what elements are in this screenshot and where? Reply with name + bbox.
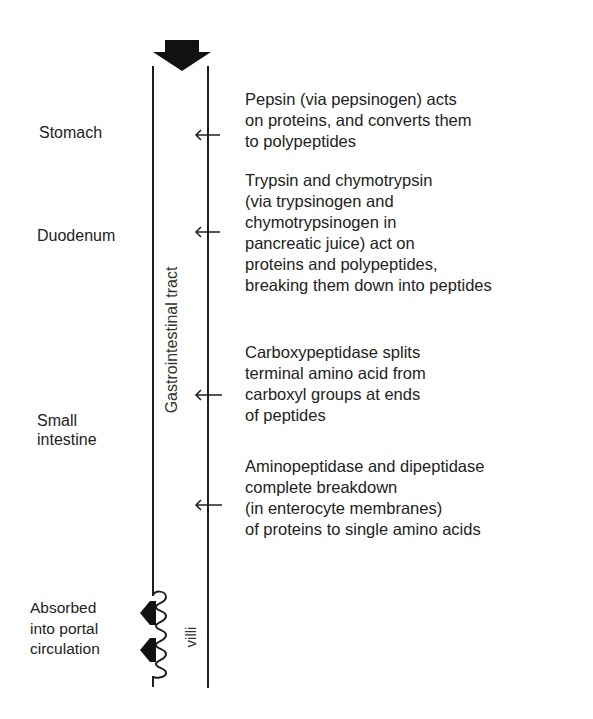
absorption-label: Absorbed into portal circulation: [30, 598, 100, 660]
region-duodenum: Duodenum: [37, 226, 115, 245]
input-arrow-icon: [153, 40, 211, 71]
villi-label: villi: [182, 627, 199, 648]
tract-label: Gastrointestinal tract: [163, 267, 181, 414]
region-stomach: Stomach: [39, 123, 102, 142]
region-small-intestine: Small intestine: [37, 411, 97, 449]
absorption-arrow-icon: [140, 601, 156, 625]
step-pepsin: Pepsin (via pepsinogen) acts on proteins…: [245, 89, 472, 152]
absorption-arrow-icon: [140, 638, 156, 662]
step-aminopeptidase: Aminopeptidase and dipeptidase complete …: [245, 456, 484, 540]
step-trypsin: Trypsin and chymotrypsin (via trypsinoge…: [245, 170, 492, 296]
step-carboxypeptidase: Carboxypeptidase splits terminal amino a…: [245, 342, 426, 426]
